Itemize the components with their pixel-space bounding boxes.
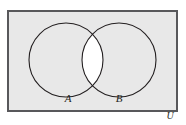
label-universal-set: U — [166, 110, 174, 121]
shaded-complement-area — [8, 11, 177, 111]
shaded-region — [8, 11, 177, 111]
label-set-a: A — [64, 92, 72, 104]
label-set-b: B — [116, 92, 123, 104]
venn-diagram-canvas: A B U — [0, 0, 186, 125]
venn-diagram-figure: A B U — [0, 0, 186, 125]
